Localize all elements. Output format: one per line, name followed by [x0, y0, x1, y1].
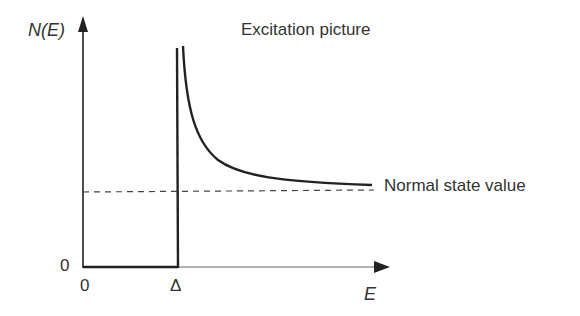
x-axis-arrow-icon	[374, 261, 390, 273]
y-axis-arrow-icon	[78, 16, 88, 32]
x-axis-label: E	[364, 284, 376, 305]
gap-tick: Δ	[170, 276, 181, 296]
y-origin-tick: 0	[60, 256, 69, 276]
dos-diagram	[0, 0, 580, 316]
dos-curve	[183, 46, 372, 185]
normal-state-line	[83, 190, 374, 192]
gap-edge-line	[177, 48, 178, 268]
chart-title: Excitation picture	[241, 20, 370, 40]
y-axis-label: N(E)	[28, 20, 65, 41]
normal-state-label: Normal state value	[384, 176, 526, 196]
x-origin-tick: 0	[80, 276, 89, 296]
